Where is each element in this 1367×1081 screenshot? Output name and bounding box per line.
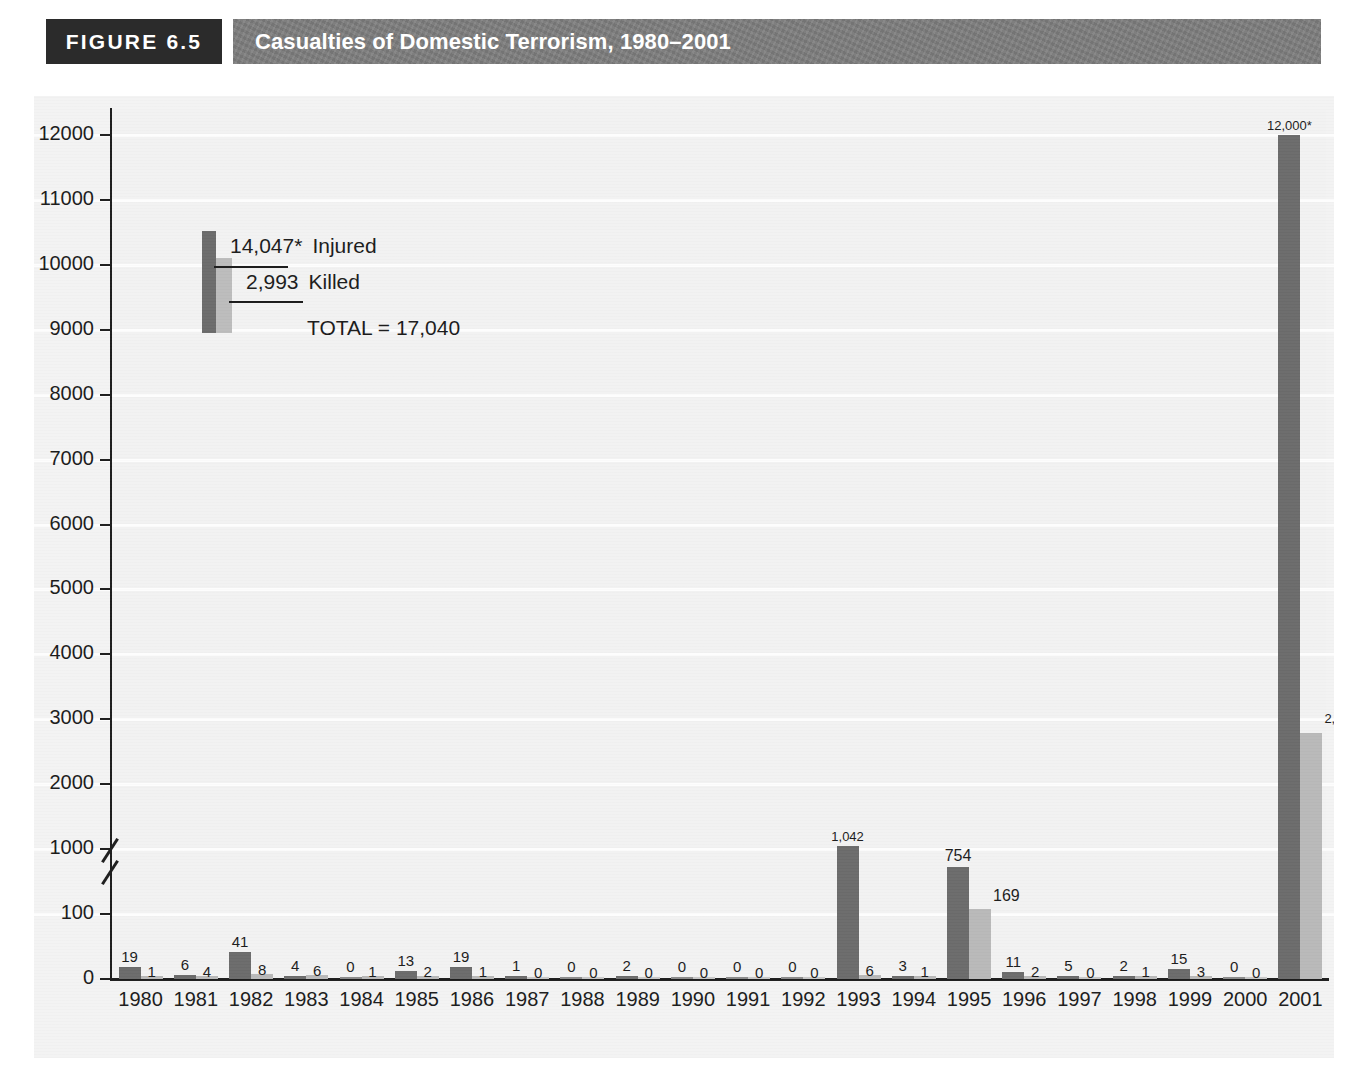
bar-group[interactable]: 10	[500, 976, 555, 979]
bar-group[interactable]: 00	[555, 977, 610, 979]
bar-injured[interactable]: 0	[340, 977, 362, 979]
bar-value-label: 15	[1171, 950, 1188, 967]
bar-group[interactable]: 153	[1162, 969, 1217, 979]
bar-injured[interactable]: 12,000*	[1278, 135, 1300, 979]
bar-injured[interactable]: 2	[1113, 976, 1135, 979]
bar-killed[interactable]: 0	[638, 977, 660, 979]
bar-injured[interactable]: 3	[892, 976, 914, 979]
bar-injured[interactable]: 1	[505, 976, 527, 979]
bar-killed[interactable]: 2,788	[1300, 733, 1322, 979]
bar-rect	[340, 977, 362, 979]
bar-injured[interactable]: 0	[560, 977, 582, 979]
bar-injured[interactable]: 0	[1223, 977, 1245, 979]
bar-group[interactable]: 132	[389, 971, 444, 979]
bar-injured[interactable]: 13	[395, 971, 417, 979]
bar-group[interactable]: 418	[223, 952, 278, 979]
bar-injured[interactable]: 754	[947, 867, 969, 979]
bar-rect	[119, 967, 141, 979]
bar-injured[interactable]: 6	[174, 975, 196, 979]
bar-killed[interactable]: 1	[914, 976, 936, 979]
legend-leader-line-killed	[229, 301, 303, 303]
bar-group[interactable]: 112	[997, 972, 1052, 979]
bar-injured[interactable]: 2	[616, 976, 638, 979]
bar-killed[interactable]: 1	[472, 976, 494, 979]
bar-killed[interactable]: 0	[582, 977, 604, 979]
bar-value-label: 2	[1031, 963, 1039, 980]
bar-injured[interactable]: 1,042	[837, 846, 859, 979]
bar-rect	[726, 977, 748, 979]
gridline	[34, 783, 1334, 786]
bar-killed[interactable]: 0	[1079, 977, 1101, 979]
bar-killed[interactable]: 0	[803, 977, 825, 979]
bar-killed[interactable]: 0	[527, 977, 549, 979]
legend-swatch-killed	[216, 258, 232, 333]
bar-killed[interactable]: 1	[141, 976, 163, 979]
bar-injured[interactable]: 11	[1002, 972, 1024, 979]
bar-killed[interactable]: 0	[693, 977, 715, 979]
bar-group[interactable]: 00	[721, 977, 776, 979]
y-axis-tick	[100, 199, 111, 201]
bar-injured[interactable]: 0	[726, 977, 748, 979]
bar-value-label: 0	[700, 964, 708, 981]
bar-rect	[174, 975, 196, 979]
bar-injured[interactable]: 0	[781, 977, 803, 979]
bar-value-label: 3	[1197, 963, 1205, 980]
bar-killed[interactable]: 1	[362, 976, 384, 979]
bar-killed[interactable]: 0	[748, 977, 770, 979]
bar-killed[interactable]: 8	[251, 974, 273, 979]
bar-group[interactable]: 64	[168, 975, 223, 979]
bar-injured[interactable]: 4	[284, 976, 306, 979]
bar-group[interactable]: 31	[886, 976, 941, 979]
bar-rect	[1278, 135, 1300, 979]
bar-killed[interactable]: 0	[1245, 977, 1267, 979]
bar-group[interactable]: 21	[1107, 976, 1162, 979]
y-axis-tick-label: 2000	[34, 771, 94, 794]
legend-total: TOTAL = 17,040	[307, 316, 460, 340]
bar-rect	[671, 977, 693, 979]
bar-group[interactable]: 191	[113, 967, 168, 979]
y-axis-tick	[100, 329, 111, 331]
bar-killed[interactable]: 2	[417, 976, 439, 979]
bar-value-label: 1	[512, 957, 520, 974]
bar-group[interactable]: 1,0426	[831, 846, 886, 979]
bar-killed[interactable]: 4	[196, 976, 218, 979]
bar-injured[interactable]: 15	[1168, 969, 1190, 979]
bar-group[interactable]: 00	[776, 977, 831, 979]
bar-group[interactable]: 12,000*2,788	[1273, 135, 1328, 979]
bar-injured[interactable]: 41	[229, 952, 251, 979]
bar-injured[interactable]: 5	[1057, 976, 1079, 979]
bar-group[interactable]: 191	[444, 967, 499, 979]
bar-group[interactable]: 00	[1218, 977, 1273, 979]
gridline	[34, 588, 1334, 591]
bar-value-label: 19	[453, 948, 470, 965]
gridline	[34, 199, 1334, 202]
bar-group[interactable]: 50	[1052, 976, 1107, 979]
bar-value-label: 1	[1142, 963, 1150, 980]
bar-killed[interactable]: 6	[859, 975, 881, 979]
gridline	[34, 394, 1334, 397]
bar-group[interactable]: 46	[279, 975, 334, 979]
bar-killed[interactable]: 6	[306, 975, 328, 979]
bar-killed[interactable]: 1	[1135, 976, 1157, 979]
bar-group[interactable]: 00	[665, 977, 720, 979]
bar-value-label: 4	[291, 957, 299, 974]
bar-value-label: 0	[755, 964, 763, 981]
bar-killed[interactable]: 169	[969, 909, 991, 979]
bar-group[interactable]: 20	[610, 976, 665, 979]
figure-header: FIGURE 6.5 Casualties of Domestic Terror…	[46, 19, 1321, 64]
bar-injured[interactable]: 19	[119, 967, 141, 979]
bar-killed[interactable]: 3	[1190, 976, 1212, 979]
bar-injured[interactable]: 0	[671, 977, 693, 979]
bar-value-label: 6	[181, 956, 189, 973]
y-axis-tick-label: 10000	[34, 252, 94, 275]
bar-value-label: 1	[147, 963, 155, 980]
bar-killed[interactable]: 2	[1024, 976, 1046, 979]
gridline	[34, 134, 1334, 137]
legend-swatch-injured	[202, 231, 216, 333]
gridline	[34, 718, 1334, 721]
bar-injured[interactable]: 19	[450, 967, 472, 979]
legend-label-injured: Injured	[312, 234, 376, 258]
bar-rect	[1168, 969, 1190, 979]
bar-group[interactable]: 754169	[941, 867, 996, 979]
bar-group[interactable]: 01	[334, 976, 389, 979]
